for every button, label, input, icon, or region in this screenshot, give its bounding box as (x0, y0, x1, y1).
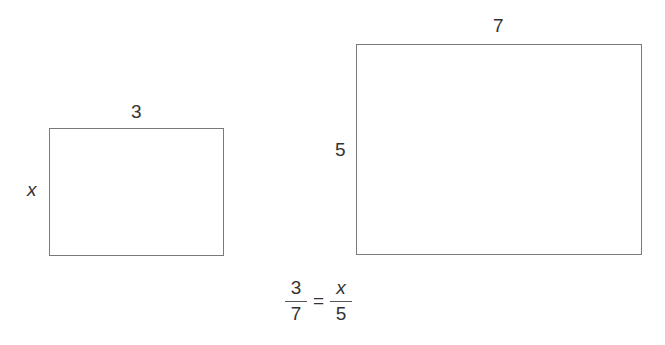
large-rect-top-label: 7 (493, 16, 504, 35)
left-denominator: 7 (289, 304, 304, 325)
proportion-equation: 3 7 = x 5 (285, 278, 352, 325)
small-rect-side-label: x (27, 180, 37, 199)
fraction-bar (330, 301, 352, 302)
right-fraction: x 5 (330, 278, 352, 325)
small-rect-top-label: 3 (131, 102, 142, 121)
equals-sign: = (313, 290, 324, 312)
left-numerator: 3 (289, 278, 304, 299)
left-fraction: 3 7 (285, 278, 307, 325)
right-denominator: 5 (334, 304, 349, 325)
large-rect-side-label: 5 (335, 140, 346, 159)
fraction-bar (285, 301, 307, 302)
right-numerator: x (334, 278, 348, 299)
small-rectangle (49, 128, 224, 256)
large-rectangle (356, 44, 642, 255)
